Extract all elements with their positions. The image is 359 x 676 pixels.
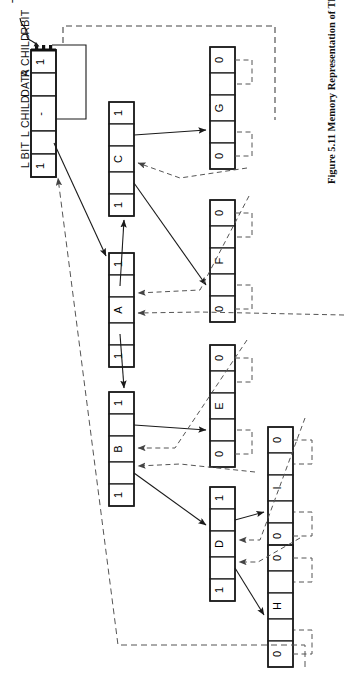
thread-h-left [293,630,312,654]
pointer-c-to-g [134,130,206,135]
thread-g-left [235,132,252,156]
node-i-rbit-value: 0 [271,437,283,443]
header-data-value: - [34,112,46,116]
pointer-b-to-d [134,473,206,525]
node-f-lbit-value: 0 [213,306,225,312]
node-h-data-value: H [271,602,283,610]
thread-g-right [235,60,252,84]
header-lbit-value: 1 [34,163,46,169]
node-d-rbit-value: 1 [213,495,225,501]
thread-to-b-lower [138,464,255,472]
node-g-rbit-value: 0 [213,57,225,63]
thread-right-to-a [138,312,344,315]
node-f-rbit-value: 0 [213,210,225,216]
node-e-data-value: E [213,402,225,409]
node-b-lbit-value: 1 [112,492,124,498]
node-c-data-value: C [112,155,124,163]
field-header-rbit: RBIT [19,0,31,51]
node-b-rbit-value: 1 [112,400,124,406]
thread-e-left [235,430,252,454]
pointer-b-to-e [134,425,206,430]
node-h-rbit-value: 0 [271,555,283,561]
node-d-data-value: D [213,540,225,548]
thread-i-left [293,512,312,536]
thread-e-right [235,358,252,382]
node-g-lbit-value: 0 [213,153,225,159]
thread-h-right [293,558,312,582]
node-c-rbit-value: 1 [112,110,124,116]
node-i-lbit-value: 0 [271,533,283,539]
thread-f-right [235,213,252,237]
header-rbit-value: 1 [34,59,46,65]
node-h-lbit-value: 0 [271,651,283,657]
pointer-d-to-h [235,568,264,615]
node-c-lbit-value: 1 [112,202,124,208]
node-d-lbit-value: 1 [213,587,225,593]
node-i-data-value: I [271,486,283,489]
pointer-header-to-a [54,143,106,256]
figure-canvas: 1 - 1 1 C 1 1 A 1 [0,0,359,676]
node-e-rbit-value: 0 [213,355,225,361]
pointer-c-to-f [134,183,206,285]
thread-f-left [235,285,252,309]
tree-pointer-label: T [10,0,24,3]
node-g-data-value: G [213,104,225,113]
threaded-tree-diagram: 1 - 1 1 C 1 1 A 1 [0,0,359,676]
node-b-data-value: B [112,445,124,452]
node-e-lbit-value: 0 [213,451,225,457]
node-f-data-value: F [213,257,225,264]
figure-caption: Figure 5.11 Memory Representation of Thr… [326,0,337,184]
pointer-d-to-i [235,512,264,520]
node-a-data-value: A [112,306,124,314]
